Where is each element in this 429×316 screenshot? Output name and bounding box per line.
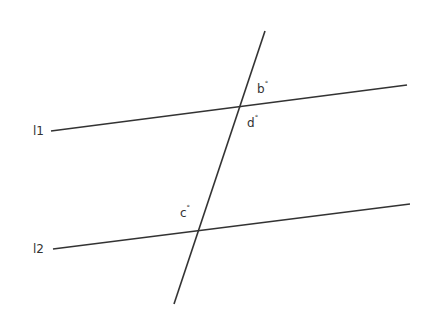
diagram-canvas (0, 0, 429, 316)
angle-label-b: b° (257, 83, 268, 95)
angle-label-d: d° (247, 117, 258, 129)
line-l2 (53, 204, 410, 249)
angle-label-c: c° (180, 207, 190, 219)
line-l1 (51, 85, 407, 131)
angle-letter-c: c (180, 206, 187, 220)
degree-mark: ° (187, 204, 191, 212)
angle-letter-d: d (247, 116, 255, 130)
label-l1: l1 (33, 125, 44, 137)
angle-letter-b: b (257, 82, 265, 96)
degree-mark: ° (265, 80, 269, 88)
label-l2: l2 (33, 243, 44, 255)
degree-mark: ° (255, 114, 259, 122)
transversal-line (174, 31, 265, 304)
